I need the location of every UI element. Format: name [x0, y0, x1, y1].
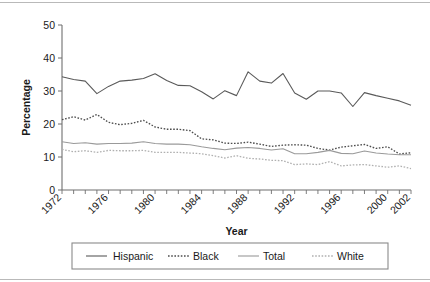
y-tick-label-10: 10	[43, 151, 55, 163]
x-axis: 197219761980198419881992199620002002	[38, 190, 412, 216]
x-tick-label-1976: 1976	[85, 191, 110, 216]
x-tick-label-2000: 2000	[364, 191, 389, 216]
data-series-layer	[62, 72, 411, 169]
x-tick-label-1984: 1984	[178, 191, 203, 216]
y-tick-label-30: 30	[43, 85, 55, 97]
x-tick-label-2002: 2002	[387, 191, 412, 216]
y-tick-label-40: 40	[43, 52, 55, 64]
legend-label-black: Black	[193, 250, 219, 262]
series-line-hispanic	[62, 72, 411, 107]
chart-legend: HispanicBlackTotalWhite	[72, 243, 388, 269]
series-line-total	[62, 142, 411, 155]
x-tick-label-1972: 1972	[38, 191, 63, 216]
y-axis: 01020304050	[43, 19, 62, 196]
x-axis-title: Year	[225, 225, 247, 237]
y-axis-title: Percentage	[20, 79, 32, 136]
legend-label-white: White	[337, 250, 364, 262]
chart-figure: 01020304050 1972197619801984198819921996…	[0, 0, 430, 282]
legend-label-total: Total	[263, 250, 285, 262]
line-chart-canvas: 01020304050 1972197619801984198819921996…	[0, 0, 430, 282]
y-tick-label-50: 50	[43, 19, 55, 31]
legend-label-hispanic: Hispanic	[113, 250, 153, 262]
x-tick-label-1980: 1980	[131, 191, 156, 216]
x-tick-label-1996: 1996	[318, 191, 343, 216]
y-tick-label-20: 20	[43, 118, 55, 130]
x-tick-label-1992: 1992	[271, 191, 296, 216]
x-tick-label-1988: 1988	[225, 191, 250, 216]
